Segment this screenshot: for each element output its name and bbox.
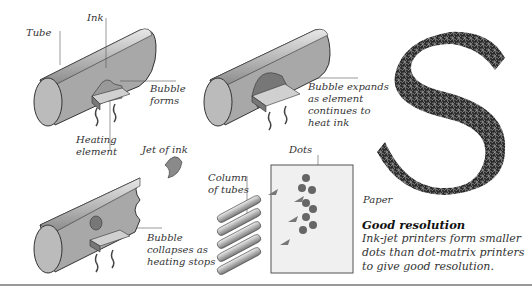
label-heating-element: Heating element xyxy=(76,134,117,158)
paper-sheet xyxy=(268,165,353,273)
caption-title: Good resolution xyxy=(362,218,532,232)
label-column-of-tubes: Column of tubes xyxy=(208,172,249,196)
column-of-tubes xyxy=(216,194,262,276)
bottom-divider xyxy=(0,284,532,286)
ink-droplet xyxy=(165,157,182,178)
label-bubble-expands: Bubble expands as element continues to h… xyxy=(308,81,389,129)
label-bubble-collapses: Bubble collapses as heating stops xyxy=(147,232,215,268)
caption: Good resolution Ink-jet printers form sm… xyxy=(362,218,532,274)
label-tube: Tube xyxy=(26,27,51,39)
printed-letter-s xyxy=(377,32,505,195)
tube-stage-bubble-forms xyxy=(34,29,156,126)
label-bubble-forms: Bubble forms xyxy=(150,83,186,107)
label-paper: Paper xyxy=(363,194,392,206)
label-ink: Ink xyxy=(87,12,103,24)
label-jet-of-ink: Jet of ink xyxy=(142,144,188,156)
caption-body: Ink-jet printers form smaller dots than … xyxy=(362,232,532,274)
label-dots: Dots xyxy=(289,144,312,156)
